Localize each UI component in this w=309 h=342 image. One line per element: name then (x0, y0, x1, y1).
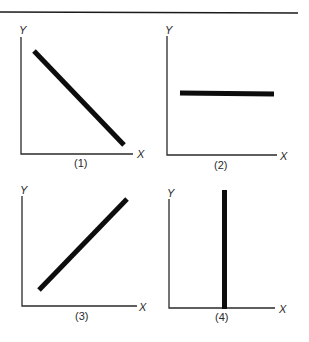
panel-1-caption: (1) (74, 157, 87, 169)
panel-3-line (39, 199, 127, 290)
panel-1-y-label: Y (19, 24, 27, 36)
panel-4: Y X (4) (167, 187, 287, 323)
panel-2-caption: (2) (214, 159, 227, 171)
panel-2-y-label: Y (165, 24, 173, 36)
panel-2: Y X (2) (165, 24, 288, 171)
panel-3: Y X (3) (20, 184, 147, 322)
panel-2-line (180, 93, 274, 94)
top-rule (0, 12, 298, 13)
panel-4-y-label: Y (167, 187, 175, 199)
panel-3-x-label: X (138, 301, 147, 313)
panel-1: Y X (1) (19, 24, 145, 169)
panel-3-y-label: Y (20, 184, 28, 196)
panel-2-x-label: X (279, 150, 288, 162)
panel-3-caption: (3) (75, 310, 88, 322)
panel-4-caption: (4) (215, 311, 228, 323)
figure-canvas: Y X (1) Y X (2) Y X (3) Y X (4) (0, 0, 309, 342)
panel-4-x-label: X (278, 303, 287, 315)
panel-1-line (34, 51, 124, 145)
panel-1-x-label: X (136, 148, 145, 160)
